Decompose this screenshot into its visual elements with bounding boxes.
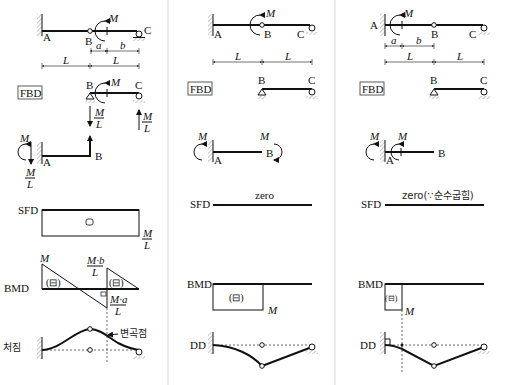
deflection-diagram: DD <box>360 332 490 368</box>
svg-text:C: C <box>480 74 487 86</box>
free-body-diagram: FBD B C M M A B <box>360 74 490 166</box>
svg-text:M: M <box>267 304 278 316</box>
fbd-label: FBD <box>20 87 41 99</box>
svg-text:B: B <box>266 147 273 159</box>
svg-text:(⊟): (⊟) <box>385 294 398 303</box>
svg-text:L: L <box>406 50 413 62</box>
svg-text:M: M <box>403 7 414 19</box>
cantilever-ab <box>42 138 90 156</box>
svg-text:M: M <box>404 305 415 317</box>
svg-text:C: C <box>308 74 315 86</box>
column-2: A B C M L L FBD B C M A B <box>187 7 318 368</box>
svg-text:B: B <box>264 28 271 40</box>
free-body-diagram: FBD B C M A B M <box>188 74 318 166</box>
svg-text:L: L <box>284 50 291 62</box>
svg-text:B: B <box>86 79 93 91</box>
deflection-label: 처짐 <box>3 342 21 353</box>
bending-moment-diagram: M BMD (⊟) (⊟) M·b L M·a L <box>4 252 139 317</box>
svg-text:SFD: SFD <box>190 198 210 210</box>
deflection-diagram: 처짐 변곡점 <box>3 308 147 363</box>
svg-text:a: a <box>391 34 397 46</box>
bending-moment-diagram: BMD (⊟) M <box>358 278 484 372</box>
svg-text:M·b: M·b <box>86 254 105 266</box>
column-1: A B C M a b L L FBD <box>3 12 153 363</box>
hinge-b <box>88 29 93 34</box>
svg-text:M: M <box>142 110 153 122</box>
sfd-label: SFD <box>18 204 38 216</box>
svg-text:M: M <box>39 252 50 264</box>
svg-text:SFD: SFD <box>361 198 381 210</box>
svg-text:L: L <box>26 178 33 190</box>
svg-text:M: M <box>19 132 30 144</box>
svg-text:L: L <box>143 239 150 251</box>
svg-text:M: M <box>94 106 105 118</box>
label-c: C <box>144 24 151 36</box>
shear-force-diagram: SFD M L <box>18 204 153 251</box>
beam-diagram-sheet: A B C M a b L L FBD <box>0 0 505 385</box>
zero-pure-bending-label: zero(∵순수굽힘) <box>402 190 474 201</box>
sfd-rectangle <box>42 210 139 236</box>
dim-b: b <box>120 39 126 51</box>
svg-text:A: A <box>386 154 394 166</box>
dim-l: L <box>62 54 69 66</box>
svg-text:M: M <box>25 166 36 178</box>
svg-text:(⊟): (⊟) <box>229 292 244 304</box>
fixed-support-hatch <box>37 14 42 36</box>
svg-text:L: L <box>95 118 102 130</box>
svg-text:C: C <box>297 28 304 40</box>
svg-text:(⊟): (⊟) <box>46 277 61 289</box>
svg-text:C: C <box>469 28 476 40</box>
svg-text:L: L <box>143 122 150 134</box>
free-body-diagram: FBD B C M M L M L B A <box>18 76 153 190</box>
shear-force-diagram: SFD zero(∵순수굽힘) <box>361 190 484 210</box>
svg-text:M: M <box>197 130 208 142</box>
beam-structure: A B C M L L <box>208 7 318 65</box>
bending-moment-diagram: BMD (⊟) M <box>187 278 312 316</box>
svg-text:DD: DD <box>190 339 206 351</box>
svg-text:BMD: BMD <box>358 278 383 290</box>
svg-text:M: M <box>142 227 153 239</box>
svg-text:B: B <box>95 150 102 162</box>
svg-text:M: M <box>369 130 380 142</box>
svg-text:L: L <box>456 50 463 62</box>
svg-text:A: A <box>214 154 222 166</box>
inflection-label: 변곡점 <box>120 328 147 339</box>
svg-text:L: L <box>91 266 98 278</box>
svg-text:A: A <box>43 156 51 168</box>
shear-force-diagram: SFD zero <box>190 189 312 210</box>
svg-text:M: M <box>265 7 276 19</box>
label-m: M <box>108 12 119 24</box>
svg-text:FBD: FBD <box>362 83 383 95</box>
svg-text:M: M <box>397 130 408 142</box>
svg-text:FBD: FBD <box>190 83 211 95</box>
bmd-label: BMD <box>4 282 29 294</box>
dim-l: L <box>112 54 119 66</box>
svg-text:B: B <box>258 74 265 86</box>
zero-label: zero <box>255 189 274 201</box>
sign-symbol <box>86 219 93 225</box>
svg-text:M: M <box>110 76 121 88</box>
svg-text:b: b <box>416 34 422 46</box>
beam-structure: A B C M a b L L <box>370 7 490 65</box>
svg-text:C: C <box>135 79 142 91</box>
label-b: B <box>85 35 92 47</box>
label-a: A <box>43 31 51 43</box>
svg-text:B: B <box>430 74 437 86</box>
inflection-arrow <box>108 334 118 335</box>
svg-text:L: L <box>114 305 121 317</box>
dim-a: a <box>96 39 102 51</box>
deflection-diagram: DD <box>190 332 318 368</box>
svg-text:A: A <box>214 28 222 40</box>
svg-text:M: M <box>259 130 270 142</box>
column-3: A B C M a b L L FBD B C <box>358 7 490 372</box>
svg-text:BMD: BMD <box>187 278 212 290</box>
beam-structure: A B C M a b L L <box>37 12 151 69</box>
roller-c <box>136 31 142 37</box>
svg-text:B: B <box>438 147 445 159</box>
svg-text:L: L <box>234 50 241 62</box>
svg-text:A: A <box>370 19 378 31</box>
svg-text:M·a: M·a <box>109 293 128 305</box>
svg-text:DD: DD <box>360 339 376 351</box>
svg-text:B: B <box>431 28 438 40</box>
svg-text:(⊟): (⊟) <box>109 277 124 289</box>
